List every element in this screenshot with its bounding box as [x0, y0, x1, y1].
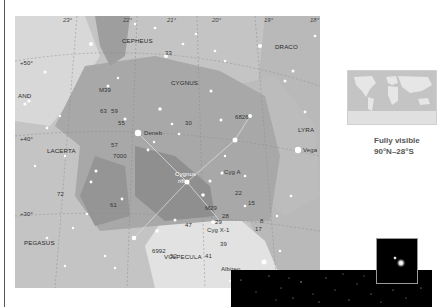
star-label: 8	[260, 218, 263, 224]
dec-tick-30: +30°	[20, 211, 33, 217]
label-cyg-a: Cyg A	[224, 169, 241, 175]
star-chart: 23° 22° 21° 20° 19° 18° +50° +40° +30° C…	[15, 16, 320, 288]
star-label: 29	[215, 219, 222, 225]
star-label: 15	[248, 200, 255, 206]
label-m29: M29	[205, 205, 217, 211]
label-vega: Vega	[303, 147, 317, 153]
ra-tick-23: 23°	[63, 17, 72, 23]
star-label: 33	[165, 50, 172, 56]
dec-tick-50: +50°	[20, 60, 33, 66]
ra-tick-20: 20°	[212, 17, 221, 23]
star-label: 22	[235, 190, 242, 196]
ra-tick-19: 19°	[264, 17, 273, 23]
label-cygnus-rift: Cygnus	[175, 171, 196, 177]
star-label: 63	[100, 108, 107, 114]
label-cyg-x1: Cyg X-1	[207, 227, 229, 233]
label-cygnus-rift-2: rift	[178, 178, 185, 184]
label-ngc6826: 6826	[235, 114, 249, 120]
world-visibility-map	[347, 70, 437, 125]
star-label: 47	[185, 222, 192, 228]
label-andromeda: AND	[18, 92, 31, 99]
label-cepheus: CEPHEUS	[122, 37, 153, 44]
label-ngc6992: 6992	[152, 248, 166, 254]
star-label: 57	[111, 142, 118, 148]
ra-tick-18: 18°	[310, 17, 319, 23]
world-map-icon	[348, 71, 436, 124]
label-deneb: Deneb	[144, 130, 162, 136]
label-draco: DRACO	[275, 43, 298, 50]
visibility-caption: Fully visible 90°N–28°S	[374, 135, 420, 157]
star-label: 61	[110, 202, 117, 208]
label-ngc7000: 7000	[113, 153, 127, 159]
star-label: 59	[111, 108, 118, 114]
label-cygnus: CYGNUS	[171, 79, 198, 86]
label-lyra: LYRA	[298, 126, 314, 133]
label-pegasus: PEGASUS	[24, 239, 55, 246]
label-lacerta: LACERTA	[47, 147, 76, 154]
visibility-line-1: Fully visible	[374, 135, 420, 146]
label-m39: M39	[99, 87, 111, 93]
star-label: 55	[118, 120, 125, 126]
double-star-image	[377, 239, 417, 283]
albireo-photo-inset	[376, 238, 418, 284]
dec-tick-40: +40°	[20, 136, 33, 142]
page-margin-rule	[4, 0, 5, 307]
visibility-line-2: 90°N–28°S	[374, 146, 420, 157]
star-label: 39	[220, 241, 227, 247]
star-label: 72	[57, 191, 64, 197]
star-label: 28	[222, 213, 229, 219]
star-label: 52	[170, 253, 177, 259]
ra-tick-21: 21°	[167, 17, 176, 23]
star-label: 30	[185, 120, 192, 126]
ra-tick-22: 22°	[123, 17, 132, 23]
star-label: 17	[255, 226, 262, 232]
star-label: 41	[205, 253, 212, 259]
